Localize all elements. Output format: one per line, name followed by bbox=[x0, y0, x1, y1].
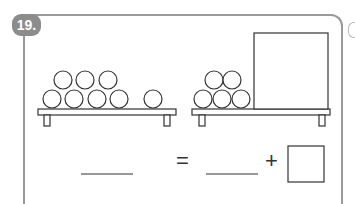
right-shelf bbox=[192, 109, 330, 126]
left-shelf bbox=[38, 109, 176, 126]
equals-sign: = bbox=[176, 148, 189, 174]
right-balls bbox=[194, 71, 250, 108]
left-balls bbox=[43, 71, 162, 108]
hiding-box bbox=[254, 33, 328, 109]
plus-sign: + bbox=[265, 148, 278, 174]
answer-box-hidden bbox=[288, 146, 324, 182]
